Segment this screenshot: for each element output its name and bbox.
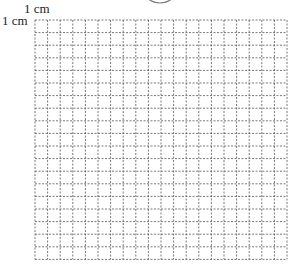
dashed-grid	[35, 20, 287, 259]
grid-diagram	[0, 0, 290, 264]
partial-ellipse-shape	[142, 0, 178, 3]
